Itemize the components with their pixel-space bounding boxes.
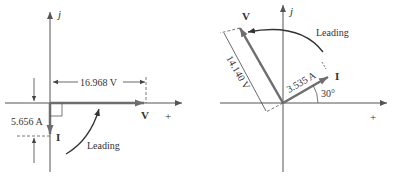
- right-voltage-phasor: [240, 28, 283, 103]
- current-dimension-tick: [322, 62, 326, 69]
- right-j-label: j: [288, 5, 293, 17]
- left-current-magnitude: 5.656 A: [11, 116, 43, 127]
- right-leading-label: Leading: [316, 27, 349, 38]
- left-j-label: j: [56, 8, 61, 20]
- left-voltage-magnitude: 16.968 V: [80, 77, 118, 88]
- right-current-magnitude: 3.535 A: [285, 69, 319, 95]
- voltage-dimension-ext-top: [220, 28, 240, 33]
- right-phasor-diagram: j + V I 30° 14.140 V 3.535 A Leading: [220, 5, 387, 172]
- right-current-angle-label: 30°: [321, 88, 335, 99]
- phasor-diagrams: j + V I 16.968 V 5.656 A Leading j +: [0, 0, 394, 189]
- right-angle-marker: [50, 103, 62, 116]
- right-voltage-label: V: [242, 10, 250, 22]
- right-current-label: I: [335, 70, 339, 82]
- left-voltage-label: V: [141, 109, 149, 121]
- voltage-dimension-ext-bottom: [266, 103, 283, 112]
- right-plus-label: +: [370, 111, 376, 123]
- left-phasor-diagram: j + V I 16.968 V 5.656 A Leading: [5, 8, 182, 172]
- left-plus-label: +: [165, 110, 171, 122]
- right-leading-arrow: [248, 30, 323, 53]
- left-current-label: I: [56, 131, 60, 143]
- angle-arc-30deg: [313, 85, 318, 103]
- left-leading-label: Leading: [87, 140, 120, 151]
